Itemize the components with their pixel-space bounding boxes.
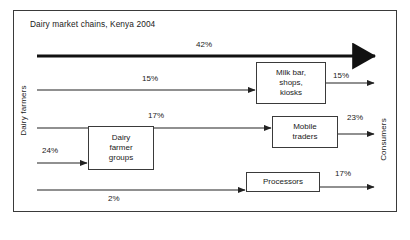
node-line: Processors — [263, 177, 303, 187]
node-line: shops, — [279, 78, 303, 88]
source-axis-label: Dairy farmers — [19, 81, 28, 141]
chart-title: Dairy market chains, Kenya 2004 — [30, 20, 155, 30]
node-mobile-traders[interactable]: Mobile traders — [272, 116, 338, 148]
node-line: traders — [293, 132, 318, 142]
flow-label-15-right: 15% — [333, 71, 349, 80]
flow-label-42: 42% — [196, 40, 212, 49]
flow-label-15-left: 15% — [142, 74, 158, 83]
node-line: Dairy — [112, 133, 131, 143]
node-dairy-farmer-groups[interactable]: Dairy farmer groups — [88, 126, 154, 170]
flow-label-23: 23% — [347, 113, 363, 122]
node-line: Milk bar, — [276, 68, 306, 78]
node-milk-bar-shops-kiosks[interactable]: Milk bar, shops, kiosks — [256, 62, 326, 104]
sink-axis-label: Consumers — [379, 112, 388, 168]
node-line: kiosks — [280, 88, 302, 98]
node-line: Mobile — [293, 122, 317, 132]
flow-label-24: 24% — [42, 146, 58, 155]
flow-label-2: 2% — [108, 194, 120, 203]
node-line: groups — [109, 153, 133, 163]
node-processors[interactable]: Processors — [246, 172, 320, 192]
node-line: farmer — [109, 143, 132, 153]
flow-label-17-processors: 17% — [335, 169, 351, 178]
flow-label-17-mobile: 17% — [148, 111, 164, 120]
